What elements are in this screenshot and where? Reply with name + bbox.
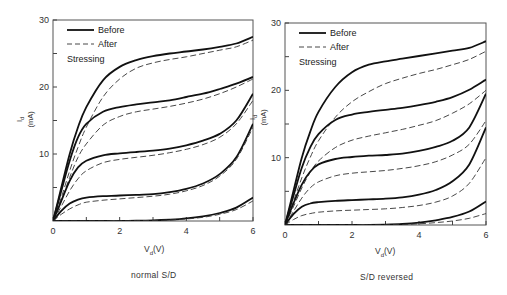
y-tick-label: 20 — [39, 82, 49, 92]
y-tick-label: 10 — [39, 149, 49, 159]
caption-sd-reversed: S/D reversed — [360, 272, 413, 282]
legend-after-label: After — [330, 42, 349, 52]
before-curve-4 — [285, 127, 486, 225]
before-curve-2 — [53, 77, 253, 221]
legend: BeforeAfterStressing — [299, 28, 357, 67]
y-axis-label-left: Id (mA) — [16, 104, 35, 134]
after-curve-4 — [53, 127, 253, 221]
y-tick-label: 30 — [39, 15, 49, 25]
y-tick-label: 10 — [271, 153, 281, 163]
after-curve-3 — [285, 121, 486, 225]
legend-stressing-note: Stressing — [67, 54, 105, 64]
before-curve-3 — [285, 94, 486, 225]
x-tick-label: 4 — [184, 226, 189, 236]
x-tick-label: 2 — [349, 230, 354, 240]
caption-normal-sd: normal S/D — [131, 270, 177, 280]
x-tick-label: 6 — [483, 230, 488, 240]
before-curve-4 — [53, 124, 253, 221]
legend-after-label: After — [98, 39, 117, 49]
x-tick-label: 0 — [50, 226, 55, 236]
legend-before-label: Before — [330, 28, 357, 38]
plot-frame — [285, 23, 486, 225]
legend-stressing-note: Stressing — [299, 57, 337, 67]
x-tick-label: 0 — [282, 230, 287, 240]
x-axis-label-right: Vd(V) — [375, 246, 395, 258]
y-axis-label-right: Id (mA) — [249, 102, 268, 132]
plot-panel-normal-sd: 0246102030BeforeAfterStressing — [39, 15, 256, 236]
plot-frame — [53, 20, 253, 221]
after-curve-3 — [53, 100, 253, 221]
legend-before-label: Before — [98, 25, 125, 35]
plot-panel-sd-reversed: 0246102030BeforeAfterStressing — [271, 18, 489, 240]
x-tick-label: 2 — [117, 226, 122, 236]
y-tick-label: 30 — [271, 18, 281, 28]
x-tick-label: 4 — [416, 230, 421, 240]
x-tick-label: 6 — [250, 226, 255, 236]
y-tick-label: 20 — [271, 85, 281, 95]
x-axis-label-left: Vd(V) — [144, 244, 164, 256]
chart-canvas: 0246102030BeforeAfterStressing 024610203… — [0, 0, 507, 295]
legend: BeforeAfterStressing — [67, 25, 125, 64]
after-curve-4 — [285, 158, 486, 225]
